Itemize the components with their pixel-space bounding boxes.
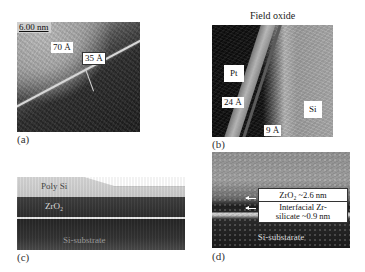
tem-panel-a: 6.00 nm 70 Å 35 Å <box>17 22 140 132</box>
si-substrate-label: Si-substarate <box>212 232 350 242</box>
zro2-label: ZrO₂ <box>45 201 63 211</box>
thickness-label-35: 35 Å <box>82 52 106 65</box>
field-oxide-title: Field oxide <box>250 10 295 21</box>
tem-panel-b: Pt 24 Å Si 9 Å <box>212 25 333 137</box>
annotation-box: ZrO₂ ~2.6 nm Interfacial Zr- silicate ~0… <box>258 188 348 223</box>
si-label: Si <box>304 101 322 118</box>
caption-c: (c) <box>17 251 29 263</box>
pt-label: Pt <box>224 65 244 82</box>
thickness-label-9: 9 Å <box>264 125 281 136</box>
thickness-label-24: 24 Å <box>222 97 244 108</box>
caption-d: (d) <box>212 250 225 262</box>
thickness-label-70: 70 Å <box>51 42 73 53</box>
silicate-label-line2: silicate ~0.9 nm <box>261 212 345 221</box>
poly-si-label: Poly Si <box>41 181 67 191</box>
arrow-left-icon <box>246 208 256 209</box>
caption-a: (a) <box>17 133 29 145</box>
tem-panel-d: ZrO₂ ~2.6 nm Interfacial Zr- silicate ~0… <box>212 152 350 248</box>
scale-bar-label: 6.00 nm <box>17 22 51 33</box>
tem-panel-c: Poly Si ZrO₂ Si-substrate <box>17 177 185 250</box>
arrow-left-icon <box>246 198 256 199</box>
si-substrate-label: Si-substrate <box>63 235 106 245</box>
silicate-thickness-label: Interfacial Zr- silicate ~0.9 nm <box>259 201 347 222</box>
zro2-thickness-label: ZrO₂ ~2.6 nm <box>259 189 347 201</box>
tem-texture <box>17 22 140 132</box>
caption-b: (b) <box>212 138 225 150</box>
